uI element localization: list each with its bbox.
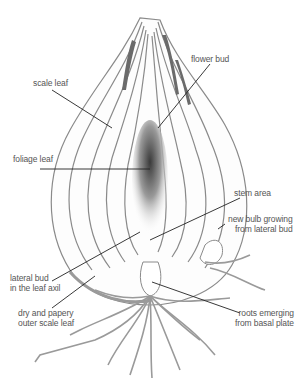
label-dry-outer-leaf: dry and papery outer scale leaf xyxy=(18,308,74,328)
label-flower-bud: flower bud xyxy=(191,54,229,64)
bulb-diagram: scale leaf flower bud foliage leaf stem … xyxy=(0,0,298,385)
label-foliage-leaf: foliage leaf xyxy=(13,154,53,164)
label-new-bulb: new bulb growing from lateral bud xyxy=(228,214,293,234)
flower-bud-shading xyxy=(132,120,168,240)
label-scale-leaf: scale leaf xyxy=(33,78,68,88)
basal-plate xyxy=(140,262,160,296)
label-stem-area: stem area xyxy=(234,188,271,198)
label-roots: roots emerging from basal plate xyxy=(235,308,294,328)
label-lateral-bud: lateral bud in the leaf axil xyxy=(10,273,60,293)
